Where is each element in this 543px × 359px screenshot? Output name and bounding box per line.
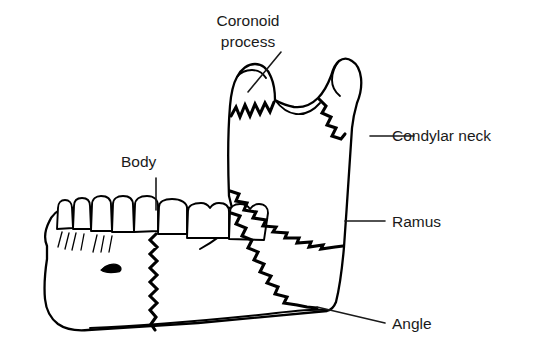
leader-angle bbox=[317, 307, 385, 323]
mandible-diagram: Coronoid process Condylar neck Ramus Ang… bbox=[0, 0, 543, 359]
label-coronoid-process-line1: Coronoid bbox=[217, 12, 280, 29]
tooth-premolar-2 bbox=[134, 196, 158, 232]
tooth-premolar-1 bbox=[112, 196, 134, 232]
label-condylar-neck: Condylar neck bbox=[392, 127, 491, 144]
label-ramus: Ramus bbox=[392, 213, 441, 230]
tooth-incisor-1 bbox=[57, 200, 73, 229]
tooth-molar-2 bbox=[187, 203, 229, 238]
label-angle: Angle bbox=[392, 315, 432, 332]
label-body: Body bbox=[121, 153, 157, 170]
label-coronoid-process-line2: process bbox=[221, 33, 276, 50]
mandible-outline bbox=[45, 59, 362, 331]
tooth-molar-1 bbox=[158, 199, 187, 234]
tooth-incisor-2 bbox=[73, 198, 91, 229]
tooth-canine bbox=[91, 196, 112, 231]
